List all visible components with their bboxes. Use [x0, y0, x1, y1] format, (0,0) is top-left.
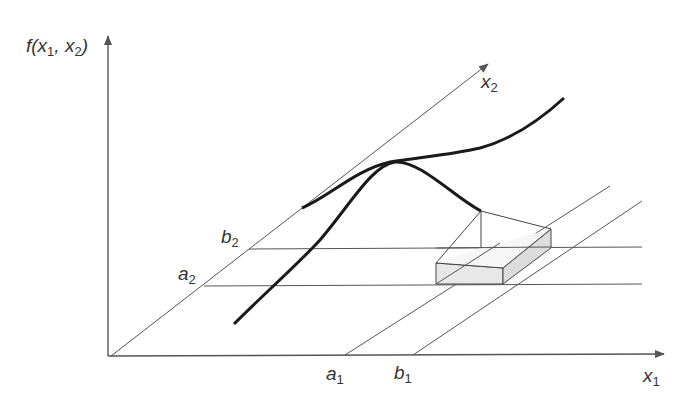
b2-base: b — [221, 226, 232, 247]
peak-to-right — [481, 211, 551, 229]
density-curve-back — [302, 98, 564, 208]
x1-axis — [108, 354, 664, 356]
f-label-sub2: 2 — [74, 44, 81, 59]
a1-label: a1 — [326, 364, 344, 386]
a2-line — [204, 284, 642, 286]
f-label-end: ) — [82, 35, 88, 56]
x2-axis-label: x2 — [481, 72, 498, 94]
joint-density-diagram — [0, 0, 691, 394]
x2-base: x — [481, 71, 491, 92]
b1-sub: 1 — [405, 371, 412, 386]
b1-label: b1 — [394, 363, 412, 385]
x2-sub: 2 — [491, 80, 498, 95]
density-curve-front — [234, 162, 481, 324]
x1-sub: 1 — [653, 374, 660, 389]
a1-base: a — [326, 363, 337, 384]
a1-sub: 1 — [337, 372, 344, 387]
a2-base: a — [178, 263, 189, 284]
x1-base: x — [643, 365, 653, 386]
a2-sub: 2 — [189, 272, 196, 287]
b2-label: b2 — [221, 227, 239, 249]
b1-base: b — [394, 362, 405, 383]
x1-axis-label: x1 — [643, 366, 660, 388]
f-label-base: f(x — [26, 35, 47, 56]
b2-sub: 2 — [232, 235, 239, 250]
f-label-mid: , x — [54, 35, 74, 56]
f-axis-label: f(x1, x2) — [26, 36, 88, 58]
x2-axis — [111, 64, 488, 356]
a2-label: a2 — [178, 264, 196, 286]
